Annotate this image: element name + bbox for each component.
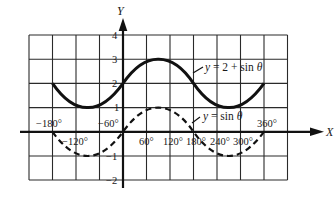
x-axis-arrow-icon bbox=[310, 128, 324, 137]
x-tick-360: 360° bbox=[257, 118, 277, 129]
x-tick-minus60: −60° bbox=[98, 118, 119, 129]
chart-canvas: Y X 4 3 2 1 −1 −2 −180° −120° −60° 60° 1… bbox=[0, 0, 336, 200]
y-tick-2: 2 bbox=[112, 78, 117, 89]
annotation-eq2: y = sin θ bbox=[202, 110, 243, 123]
y-axis-label: Y bbox=[117, 4, 125, 18]
x-axis bbox=[20, 128, 324, 137]
y-axis bbox=[119, 18, 128, 188]
x-tick-180: 180° bbox=[186, 136, 206, 147]
x-tick-minus120: −120° bbox=[62, 136, 88, 147]
x-axis-label: X bbox=[325, 125, 334, 139]
annotation-eq1: y = 2 + sin θ bbox=[204, 61, 263, 74]
x-tick-minus180: −180° bbox=[36, 118, 62, 129]
leader-eq1 bbox=[193, 67, 203, 73]
y-tick-1: 1 bbox=[114, 102, 119, 113]
x-tick-60: 60° bbox=[139, 136, 154, 147]
y-tick-3: 3 bbox=[112, 54, 117, 65]
y-tick-minus1: −1 bbox=[106, 151, 117, 162]
y-tick-4: 4 bbox=[112, 30, 118, 41]
x-tick-120: 120° bbox=[163, 136, 183, 147]
y-tick-minus2: −2 bbox=[106, 175, 117, 186]
x-tick-300: 300° bbox=[233, 136, 253, 147]
x-tick-240: 240° bbox=[210, 136, 230, 147]
y-axis-arrow-icon bbox=[119, 18, 128, 31]
